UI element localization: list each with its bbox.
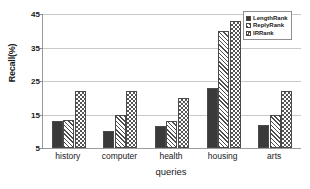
- bar-replyrank-housing: [218, 31, 229, 148]
- x-axis-tick-label-health: health: [159, 151, 182, 161]
- legend-label: IRRank: [253, 30, 274, 37]
- bar-group: [198, 14, 250, 148]
- x-axis-tick-label-computer: computer: [102, 151, 137, 161]
- legend-swatch-icon: [246, 16, 251, 21]
- bar-group: [95, 14, 147, 148]
- x-axis-title: queries: [42, 166, 300, 177]
- bar-irrank-housing: [230, 21, 241, 148]
- legend-swatch-icon: [246, 23, 251, 28]
- bar-lengthrank-arts: [258, 125, 269, 148]
- x-axis-tick-labels: historycomputerhealthhousingarts: [42, 151, 300, 167]
- bar-lengthrank-history: [52, 121, 63, 148]
- legend-item-replyrank[interactable]: ReplyRank: [246, 22, 288, 29]
- y-axis-tick-label: 35: [22, 43, 40, 52]
- bar-group: [146, 14, 198, 148]
- x-axis-tick-label-arts: arts: [267, 151, 281, 161]
- bar-irrank-computer: [126, 91, 137, 148]
- y-axis-tick-label: 25: [22, 77, 40, 86]
- bar-replyrank-health: [166, 121, 177, 148]
- bar-replyrank-computer: [115, 115, 126, 149]
- bar-replyrank-history: [63, 120, 74, 148]
- y-axis-tick-label: 5: [22, 144, 40, 153]
- legend-swatch-icon: [246, 31, 251, 36]
- y-axis-tick-label: 15: [22, 110, 40, 119]
- bar-lengthrank-housing: [207, 88, 218, 148]
- legend-item-irrank[interactable]: IRRank: [246, 30, 288, 37]
- x-axis-tick-label-housing: housing: [208, 151, 238, 161]
- y-axis-tick-labels: 515253545: [22, 8, 40, 154]
- legend-item-lengthrank[interactable]: LengthRank: [246, 15, 288, 22]
- y-axis-tick-label: 45: [22, 10, 40, 19]
- legend-label: LengthRank: [253, 15, 288, 22]
- bar-irrank-history: [75, 91, 86, 148]
- bar-lengthrank-computer: [103, 131, 114, 148]
- legend-label: ReplyRank: [253, 22, 284, 29]
- bar-replyrank-arts: [270, 115, 281, 149]
- bar-irrank-health: [178, 98, 189, 148]
- x-axis-tick-label-history: history: [55, 151, 80, 161]
- bar-irrank-arts: [281, 91, 292, 148]
- recall-bar-chart: Recall(%) 515253545 historycomputerhealt…: [0, 0, 310, 189]
- bar-group: [43, 14, 95, 148]
- y-axis-tickmark: [40, 148, 43, 149]
- y-axis-title: Recall(%): [7, 27, 17, 99]
- chart-legend: LengthRankReplyRankIRRank: [243, 11, 292, 40]
- bar-lengthrank-health: [155, 126, 166, 148]
